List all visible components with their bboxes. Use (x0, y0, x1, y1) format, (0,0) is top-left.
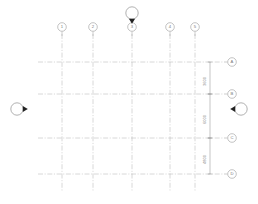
section-marker-left-circle[interactable] (11, 103, 23, 115)
dimension-value-A-B: 3600 (203, 70, 207, 86)
row-bubble-A[interactable] (228, 58, 237, 67)
column-grid-lines (62, 34, 195, 192)
column-bubble-5[interactable] (191, 23, 200, 32)
dimension-value-B-C: 6000 (203, 108, 207, 124)
column-grid-bubbles[interactable] (58, 23, 200, 36)
drawing-canvas (0, 0, 258, 204)
section-markers[interactable] (11, 7, 247, 115)
dimension-value-C-D: 4800 (203, 148, 207, 164)
row-bubble-B[interactable] (228, 90, 237, 99)
section-marker-top-circle[interactable] (126, 7, 138, 19)
column-bubble-1[interactable] (58, 23, 67, 32)
column-bubble-2[interactable] (89, 23, 98, 32)
section-marker-left-pointer (23, 106, 28, 112)
row-bubble-D[interactable] (228, 170, 237, 179)
row-grid-bubbles[interactable] (224, 58, 236, 179)
dimension-string (208, 62, 212, 174)
column-bubble-4[interactable] (166, 23, 175, 32)
section-marker-right-pointer (230, 106, 235, 112)
row-grid-lines (38, 62, 224, 174)
section-marker-right-circle[interactable] (235, 103, 247, 115)
row-bubble-C[interactable] (228, 134, 237, 143)
column-bubble-3[interactable] (128, 23, 137, 32)
